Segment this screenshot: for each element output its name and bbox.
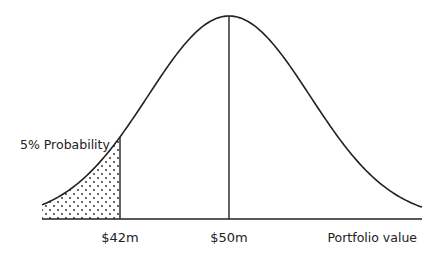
chart: 5% Probability $42m $50m Portfolio value	[0, 0, 443, 255]
probability-annotation: 5% Probability	[20, 137, 110, 152]
mean-tick-label: $50m	[210, 230, 247, 245]
x-axis-label: Portfolio value	[327, 230, 417, 245]
threshold-tick-label: $42m	[101, 230, 138, 245]
